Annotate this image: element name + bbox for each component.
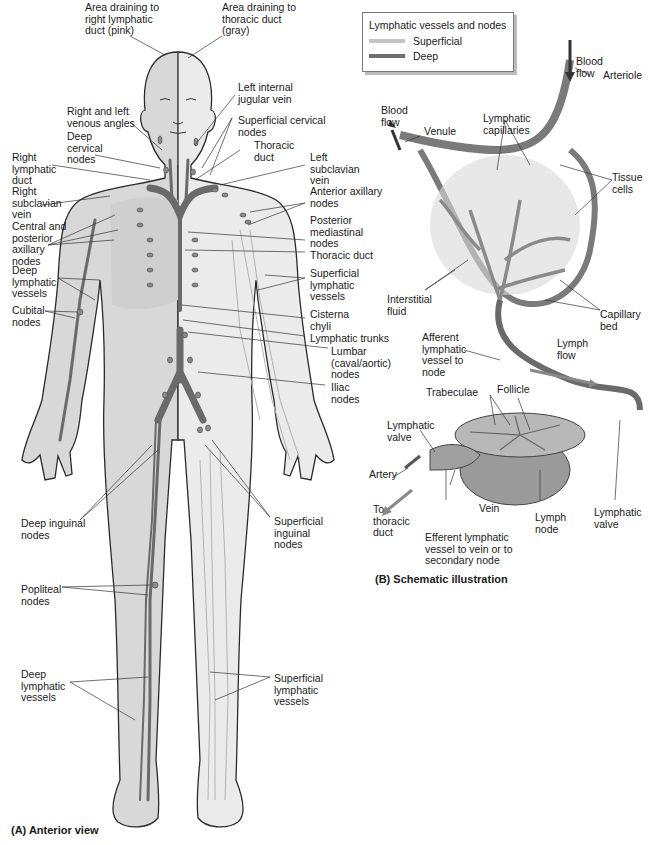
- label-superficial-vessels-arm: Superficial lymphatic vessels: [310, 268, 359, 303]
- label-lymph-flow: Lymph flow: [557, 338, 588, 361]
- label-tissue-cells: Tissue cells: [612, 172, 643, 195]
- label-to-thoracic-duct: To thoracic duct: [373, 504, 410, 539]
- superficial-swatch: [369, 39, 405, 43]
- label-capillary-bed: Capillary bed: [600, 309, 641, 332]
- legend-title: Lymphatic vessels and nodes: [369, 19, 506, 31]
- label-thoracic-duct: Thoracic duct: [310, 250, 373, 262]
- label-superficial-inguinal: Superficial inguinal nodes: [274, 516, 323, 551]
- label-lumbar: Lumbar (caval/aortic) nodes: [331, 346, 391, 381]
- label-posterior-mediastinal: Posterior mediastinal nodes: [310, 215, 363, 250]
- label-afferent-vessel: Afferent lymphatic vessel to node: [422, 332, 466, 378]
- label-deep-vessels-leg: Deep lymphatic vessels: [21, 669, 65, 704]
- legend-label: Deep: [413, 50, 438, 62]
- label-lymphatic-valve-right: Lymphatic valve: [594, 507, 641, 530]
- label-anterior-axillary: Anterior axillary nodes: [310, 186, 382, 209]
- label-area-right-lymphatic: Area draining to right lymphatic duct (p…: [85, 2, 159, 37]
- label-right-subclavian: Right subclavian vein: [12, 186, 62, 221]
- deep-swatch: [369, 54, 405, 58]
- label-superficial-cervical: Superficial cervical nodes: [238, 115, 326, 138]
- label-deep-inguinal: Deep inguinal nodes: [21, 518, 85, 541]
- label-popliteal: Popliteal nodes: [21, 584, 61, 607]
- label-thoracic-duct-top: Thoracic duct: [254, 140, 294, 163]
- label-deep-vessels-arm: Deep lymphatic vessels: [12, 265, 56, 300]
- label-lymphatic-valve-left: Lymphatic valve: [387, 420, 434, 443]
- body-figure: [22, 52, 334, 827]
- label-efferent-vessel: Efferent lymphatic vessel to vein or to …: [425, 532, 513, 567]
- label-artery: Artery: [369, 469, 397, 481]
- legend-label: Superficial: [413, 35, 462, 47]
- label-left-subclavian: Left subclavian vein: [310, 152, 360, 187]
- label-area-thoracic: Area draining to thoracic duct (gray): [222, 2, 296, 37]
- label-venule: Venule: [424, 126, 456, 138]
- label-lymph-node: Lymph node: [535, 512, 566, 535]
- label-interstitial-fluid: Interstitial fluid: [387, 294, 432, 317]
- label-superficial-vessels-leg: Superficial lymphatic vessels: [274, 673, 323, 708]
- label-iliac: Iliac nodes: [331, 382, 360, 405]
- label-trabeculae: Trabeculae: [426, 387, 478, 399]
- label-right-lymphatic-duct: Right lymphatic duct: [12, 152, 56, 187]
- label-lymphatic-capillaries: Lymphatic capillaries: [483, 113, 530, 136]
- label-deep-cervical: Deep cervical nodes: [67, 131, 103, 166]
- label-central-posterior-axillary: Central and posterior axillary nodes: [12, 221, 66, 267]
- label-venous-angles: Right and left venous angles: [67, 106, 135, 129]
- label-lymphatic-trunks: Lymphatic trunks: [310, 333, 389, 345]
- label-arteriole: Arteriole: [603, 70, 642, 82]
- label-follicle: Follicle: [497, 384, 530, 396]
- label-blood-flow-venule: Blood flow: [381, 105, 408, 128]
- label-cubital: Cubital nodes: [12, 305, 45, 328]
- caption-panel-a: (A) Anterior view: [11, 824, 99, 836]
- label-left-internal-jugular: Left internal jugular vein: [238, 82, 293, 105]
- label-vein: Vein: [479, 503, 499, 515]
- label-cisterna-chyli: Cisterna chyli: [310, 309, 349, 332]
- caption-panel-b: (B) Schematic illustration: [375, 573, 508, 585]
- label-blood-flow-arteriole: Blood flow: [576, 56, 603, 79]
- legend-item-deep: Deep: [369, 50, 438, 62]
- legend-item-superficial: Superficial: [369, 35, 462, 47]
- legend: Lymphatic vessels and nodes Superficial …: [362, 12, 514, 72]
